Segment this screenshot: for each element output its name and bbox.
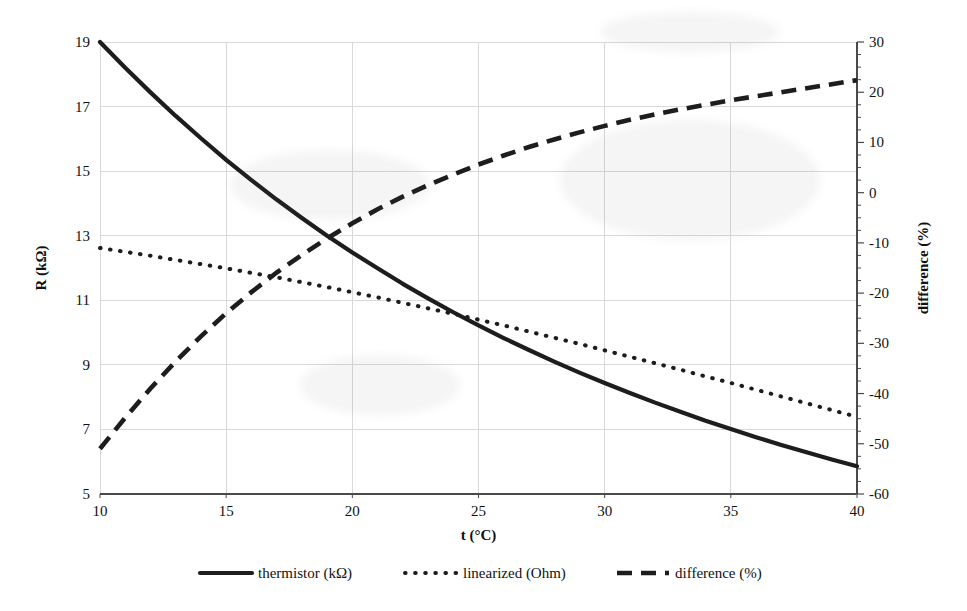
- y-tick-label: 7: [83, 421, 91, 437]
- y-tick-label: 17: [75, 99, 91, 115]
- secondary-y-tick-label: -40: [869, 386, 889, 402]
- secondary-y-tick-label: -60: [869, 486, 889, 502]
- secondary-y-axis-title: difference (%): [915, 222, 932, 315]
- x-tick-label: 30: [597, 503, 612, 519]
- secondary-y-tick-label: 30: [869, 34, 884, 50]
- secondary-y-tick-label: -20: [869, 285, 889, 301]
- thermistor-linearization-chart: 10152025303540 5791113151719 -60-50-40-3…: [0, 0, 967, 611]
- secondary-y-axis-ticks: -60-50-40-30-20-100102030: [857, 34, 889, 502]
- y-axis-title: R (kΩ): [33, 246, 50, 291]
- gridlines: [100, 42, 857, 494]
- legend-label: thermistor (kΩ): [258, 565, 352, 582]
- legend-label: linearized (Ohm): [463, 565, 566, 582]
- secondary-y-tick-label: 20: [869, 84, 884, 100]
- y-tick-label: 15: [75, 163, 90, 179]
- y-tick-label: 5: [83, 486, 91, 502]
- y-tick-label: 13: [75, 228, 90, 244]
- secondary-y-tick-label: 10: [869, 134, 884, 150]
- x-tick-label: 25: [471, 503, 486, 519]
- secondary-y-tick-label: -10: [869, 235, 889, 251]
- chart-canvas: 10152025303540 5791113151719 -60-50-40-3…: [0, 0, 967, 611]
- x-tick-label: 35: [723, 503, 738, 519]
- secondary-y-tick-label: -30: [869, 335, 889, 351]
- x-axis-ticks: 10152025303540: [93, 494, 865, 519]
- secondary-y-tick-label: -50: [869, 436, 889, 452]
- y-axis-ticks: 5791113151719: [75, 34, 91, 502]
- x-tick-label: 20: [345, 503, 360, 519]
- x-tick-label: 15: [219, 503, 234, 519]
- x-tick-label: 40: [850, 503, 865, 519]
- y-tick-label: 19: [75, 34, 90, 50]
- axis-titles: t (°C) R (kΩ) difference (%): [33, 222, 932, 544]
- legend-label: difference (%): [675, 565, 762, 582]
- secondary-y-tick-label: 0: [869, 185, 877, 201]
- chart-legend: thermistor (kΩ)linearized (Ohm)differenc…: [200, 565, 762, 582]
- y-tick-label: 9: [83, 357, 91, 373]
- x-axis-title: t (°C): [461, 527, 497, 544]
- y-tick-label: 11: [76, 292, 90, 308]
- x-tick-label: 10: [93, 503, 108, 519]
